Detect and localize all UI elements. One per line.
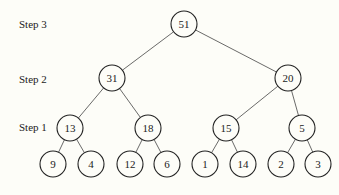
tree-diagram: 51312013181559412611423 Step 3 Step 2 St… xyxy=(0,0,339,195)
step-label-2: Step 2 xyxy=(19,73,47,85)
node-value: 20 xyxy=(283,72,295,84)
node-value: 4 xyxy=(88,158,94,170)
node-value: 14 xyxy=(238,158,250,170)
tree-node-2: 2 xyxy=(268,151,294,177)
tree-node-15: 15 xyxy=(213,115,239,141)
node-value: 1 xyxy=(202,158,208,170)
tree-edge xyxy=(120,89,141,118)
tree-edge xyxy=(154,139,161,152)
tree-edge xyxy=(122,32,173,70)
tree-edge xyxy=(292,91,299,116)
tree-node-51: 51 xyxy=(171,11,197,37)
tree-node-9: 9 xyxy=(40,151,66,177)
tree-node-4: 4 xyxy=(78,151,104,177)
tree-edge xyxy=(288,139,296,153)
tree-node-14: 14 xyxy=(230,151,256,177)
node-value: 13 xyxy=(65,122,77,134)
tree-edge xyxy=(236,86,278,120)
tree-node-13: 13 xyxy=(57,115,83,141)
node-value: 31 xyxy=(107,72,118,84)
step-label-3: Step 3 xyxy=(19,18,47,30)
node-value: 18 xyxy=(143,122,155,134)
node-value: 51 xyxy=(179,18,190,30)
tree-node-6: 6 xyxy=(154,151,180,177)
node-value: 3 xyxy=(315,158,321,170)
tree-node-3: 3 xyxy=(305,151,331,177)
tree-node-5: 5 xyxy=(289,115,315,141)
tree-node-31: 31 xyxy=(99,65,125,91)
tree-edge xyxy=(196,30,277,72)
tree-edge xyxy=(77,139,85,153)
node-value: 6 xyxy=(164,158,170,170)
tree-edge xyxy=(212,139,220,153)
node-value: 9 xyxy=(50,158,56,170)
step-label-1: Step 1 xyxy=(19,121,47,133)
node-value: 15 xyxy=(221,122,233,134)
tree-edge xyxy=(78,88,103,118)
node-value: 5 xyxy=(299,122,305,134)
node-value: 2 xyxy=(278,158,284,170)
tree-node-12: 12 xyxy=(117,151,143,177)
tree-canvas: 51312013181559412611423 xyxy=(0,0,339,195)
tree-node-18: 18 xyxy=(135,115,161,141)
tree-edge xyxy=(59,140,65,152)
tree-node-20: 20 xyxy=(275,65,301,91)
tree-edge xyxy=(307,140,312,152)
node-value: 12 xyxy=(125,158,136,170)
tree-edge xyxy=(136,140,142,153)
tree-edge xyxy=(232,140,238,152)
tree-node-1: 1 xyxy=(192,151,218,177)
